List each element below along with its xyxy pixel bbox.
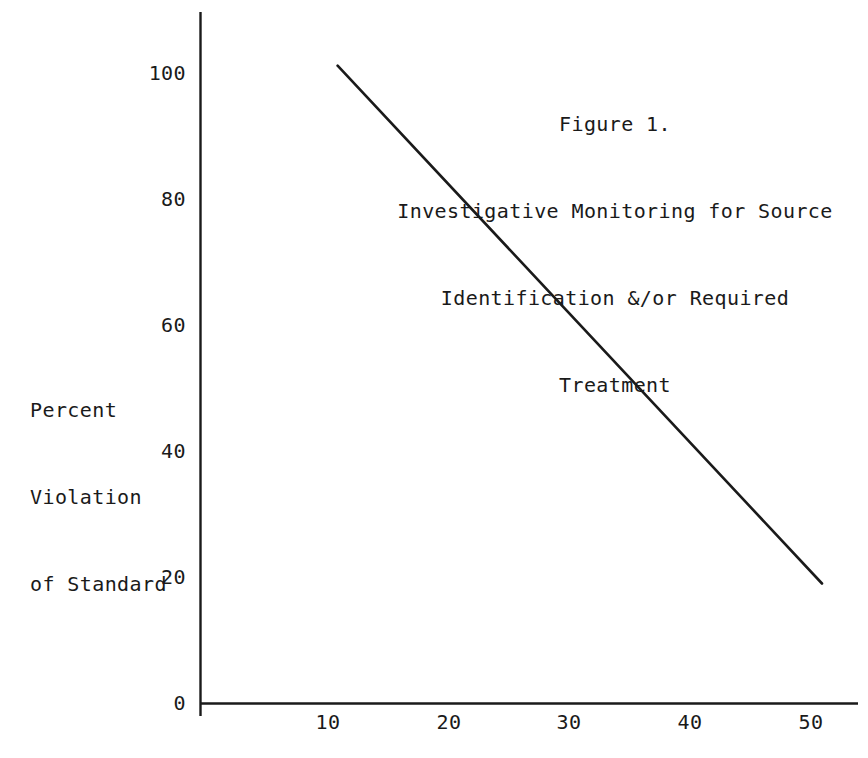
x-axis-tick-label-40: 40 (655, 712, 725, 732)
figure-title-line-2: Investigative Monitoring for Source (380, 197, 850, 226)
y-axis-tick-label-20: 20 (106, 567, 186, 587)
y-axis-tick-label-60: 60 (106, 315, 186, 335)
figure-title-line-1: Figure 1. (380, 110, 850, 139)
y-axis-tick-label-0: 0 (106, 693, 186, 713)
x-axis-tick-label-20: 20 (414, 712, 484, 732)
figure-title: Figure 1. Investigative Monitoring for S… (380, 52, 850, 458)
y-axis-title-line-2: Violation (30, 483, 190, 512)
y-axis-title: Percent Violation of Standard (30, 338, 190, 657)
y-axis-tick-label-80: 80 (106, 189, 186, 209)
figure-title-line-3: Identification &/or Required (380, 284, 850, 313)
y-axis-tick-label-40: 40 (106, 441, 186, 461)
x-axis-tick-label-10: 10 (293, 712, 363, 732)
figure-title-line-4: Treatment (380, 371, 850, 400)
x-axis-tick-label-30: 30 (534, 712, 604, 732)
y-axis-tick-label-100: 100 (106, 63, 186, 83)
x-axis-tick-label-50: 50 (776, 712, 846, 732)
y-axis-title-line-1: Percent (30, 396, 190, 425)
figure-container: Figure 1. Investigative Monitoring for S… (0, 0, 868, 758)
